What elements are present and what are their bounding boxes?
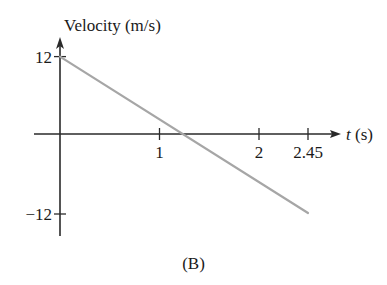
axes: 122.4512−12 — [25, 37, 341, 236]
x-tick-label: 2.45 — [293, 143, 323, 162]
x-axis-label: t (s) — [346, 125, 373, 144]
velocity-time-chart: 122.4512−12 Velocity (m/s) t (s) — [0, 0, 387, 285]
axis-labels: Velocity (m/s) t (s) — [64, 16, 373, 144]
y-tick-label: 12 — [35, 48, 52, 67]
y-tick-label: −12 — [25, 205, 52, 224]
x-axis-unit: (s) — [351, 125, 373, 144]
figure-caption: (B) — [0, 254, 387, 274]
x-tick-label: 2 — [255, 143, 264, 162]
x-tick-label: 1 — [155, 143, 164, 162]
y-axis-label: Velocity (m/s) — [64, 16, 161, 35]
